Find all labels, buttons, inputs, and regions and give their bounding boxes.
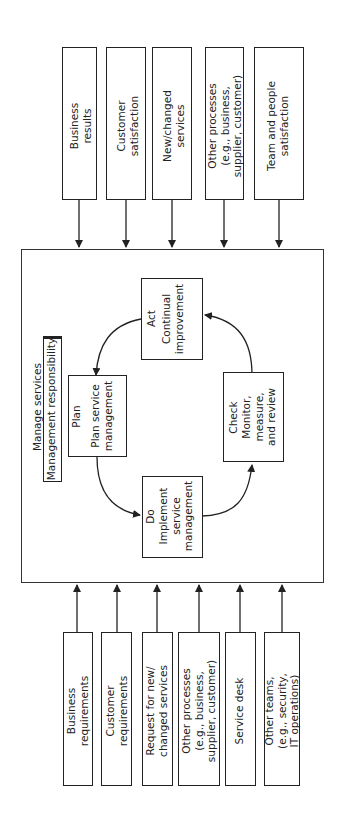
act-text: Continual improvement [160, 279, 186, 359]
input-label-other-teams: Other teams, (e.g., security, IT operati… [263, 636, 301, 786]
management-responsibility-label: Management responsibility [45, 336, 59, 482]
output-label-new-changed-services: New/changed services [161, 51, 183, 201]
plan-text: Plan service management [89, 376, 115, 456]
input-label-customer-requirements: Customer requirements [104, 636, 130, 786]
input-label-other-processes: Other processes (e.g., business, supplie… [180, 636, 218, 786]
check-text: Monitor, measure, and review [240, 372, 266, 462]
plan-heading: Plan [70, 377, 83, 457]
input-label-service-desk: Service desk [233, 636, 247, 786]
output-label-team-people-satisfaction: Team and people satisfaction [265, 51, 293, 201]
output-label-business-results: Business results [68, 51, 90, 201]
output-label-customer-satisfaction: Customer satisfaction [115, 51, 137, 201]
check-heading: Check [227, 378, 240, 458]
act-heading: Act [145, 279, 158, 359]
do-text: Implement service management [157, 476, 195, 556]
output-label-other-processes: Other processes (e.g., business, supplie… [206, 51, 242, 201]
do-heading: Do [144, 477, 157, 557]
input-label-request-new-changed: Request for new/ changed services [144, 636, 170, 786]
input-label-business-requirements: Business requirements [65, 636, 91, 786]
